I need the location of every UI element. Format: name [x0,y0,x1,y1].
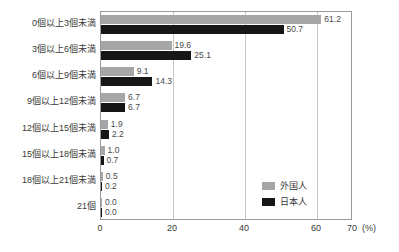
x-tick-label: 0 [97,222,102,234]
bar [101,103,125,112]
bar-value-label: 50.7 [284,25,304,34]
bar-group: 9.114.3 [101,64,351,90]
bar-value-label: 0.7 [104,156,119,165]
bar-chart: 0個以上3個未満3個以上6個未満6個以上9個未満9個以上12個未満12個以上15… [0,0,399,252]
bar-group: 61.250.7 [101,12,351,38]
bar-value-label: 0.5 [103,172,118,181]
bar-item: 50.7 [101,25,303,34]
axis-unit-label: (%) [362,222,376,234]
bar-item: 0.0 [101,198,117,207]
bar-item: 14.3 [101,77,172,86]
bar-value-label: 14.3 [152,77,172,86]
bar [101,77,152,86]
bar-value-label: 0.0 [102,208,117,217]
bar-value-label: 1.0 [105,146,120,155]
bar-item: 25.1 [101,51,211,60]
bar-value-label: 6.7 [125,103,140,112]
bar [101,41,172,50]
chart-legend: 外国人日本人 [262,180,307,212]
category-label: 18個以上21個未満 [0,175,96,186]
bar-value-label: 19.6 [172,41,192,50]
legend-item: 外国人 [262,180,307,192]
legend-item: 日本人 [262,196,307,208]
bar-item: 2.2 [101,130,124,139]
bar-value-label: 0.0 [102,198,117,207]
bar [101,130,109,139]
x-tick-label: 70 [347,222,357,234]
bar [101,25,284,34]
bar-group: 0.50.2 [101,169,351,195]
bar-item: 9.1 [101,67,149,76]
bar-item: 0.7 [101,156,118,165]
category-label: 3個以上6個未満 [0,44,96,55]
bar-group: 1.00.7 [101,143,351,169]
legend-swatch [262,182,275,190]
bar-item: 0.0 [101,208,117,217]
category-label: 15個以上18個未満 [0,149,96,160]
legend-swatch [262,198,275,206]
bar [101,93,125,102]
bar [101,67,134,76]
bar-value-label: 0.2 [102,182,117,191]
category-label: 21個 [0,201,96,212]
bar-group: 1.92.2 [101,117,351,143]
bar-group: 19.625.1 [101,38,351,64]
bar-group: 0.00.0 [101,195,351,221]
bar-item: 6.7 [101,93,140,102]
category-axis-labels: 0個以上3個未満3個以上6個未満6個以上9個未満9個以上12個未満12個以上15… [0,11,96,220]
bar-value-label: 1.9 [108,120,123,129]
category-label: 6個以上9個未満 [0,70,96,81]
x-tick-label: 60 [311,222,321,234]
bar-item: 19.6 [101,41,191,50]
bar-group: 6.76.7 [101,90,351,116]
category-label: 9個以上12個未満 [0,96,96,107]
bar-value-label: 2.2 [109,130,124,139]
category-label: 0個以上3個未満 [0,18,96,29]
bar-item: 6.7 [101,103,140,112]
category-label: 12個以上15個未満 [0,123,96,134]
bar-value-label: 61.2 [321,15,341,24]
bar [101,120,108,129]
x-tick-label: 40 [239,222,249,234]
bar-item: 0.2 [101,182,117,191]
x-tick-label: 20 [167,222,177,234]
bar [101,51,191,60]
value-axis: 020406070 [100,222,352,236]
legend-label: 外国人 [280,181,307,191]
bar [101,15,321,24]
bar-value-label: 6.7 [125,93,140,102]
bar-value-label: 9.1 [134,67,149,76]
bar-value-label: 25.1 [191,51,211,60]
plot-area: 61.250.719.625.19.114.36.76.71.92.21.00.… [100,11,352,220]
bar-item: 0.5 [101,172,118,181]
legend-label: 日本人 [280,197,307,207]
bar-item: 61.2 [101,15,341,24]
bar-item: 1.9 [101,120,123,129]
bar-item: 1.0 [101,146,119,155]
